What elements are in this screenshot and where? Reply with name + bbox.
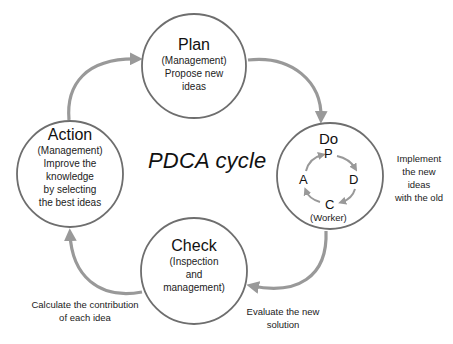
action-line: the best ideas	[39, 196, 101, 209]
plan-line: Propose new	[165, 67, 223, 80]
mini-cycle-p: P	[324, 146, 333, 161]
do-title: Do	[319, 130, 338, 147]
check-line: management)	[163, 281, 225, 294]
action-annotation: Calculate the contribution of each idea	[20, 298, 150, 324]
check-annotation-line: Evaluate the new	[238, 305, 328, 318]
do-annotation: Implement the new ideas with the old	[384, 152, 453, 204]
plan-line: (Management)	[161, 54, 226, 67]
do-annotation-line: the new	[384, 165, 453, 178]
plan-node: Plan (Management) Propose new ideas	[142, 35, 246, 93]
do-annotation-line: Implement	[384, 152, 453, 165]
arrow-plan-to-do	[248, 59, 321, 118]
do-role: (Worker)	[310, 212, 347, 223]
action-line: by selecting	[44, 183, 97, 196]
action-annotation-line: Calculate the contribution	[20, 298, 150, 311]
arrow-action-to-plan	[69, 59, 137, 120]
mini-cycle-d: D	[349, 172, 358, 187]
mini-cycle-a: A	[299, 172, 308, 187]
check-annotation: Evaluate the new solution	[238, 305, 328, 331]
do-annotation-line: ideas	[384, 178, 453, 191]
check-node: Check (Inspection and management)	[142, 236, 246, 294]
check-line: (Inspection	[170, 255, 219, 268]
check-title: Check	[171, 236, 216, 255]
arrow-do-to-check	[252, 231, 326, 288]
plan-title: Plan	[178, 35, 210, 54]
plan-line: ideas	[182, 80, 206, 93]
do-annotation-line: with the old	[384, 191, 453, 204]
action-title: Action	[48, 125, 92, 144]
action-line: knowledge	[46, 170, 94, 183]
action-line: (Management)	[37, 144, 102, 157]
check-annotation-line: solution	[238, 318, 328, 331]
action-annotation-line: of each idea	[20, 311, 150, 324]
action-node: Action (Management) Improve the knowledg…	[18, 125, 122, 209]
diagram-title: PDCA cycle	[148, 148, 267, 174]
arrow-check-to-action	[70, 234, 142, 293]
check-line: and	[186, 268, 203, 281]
mini-cycle-c: C	[325, 197, 334, 212]
action-line: Improve the	[44, 157, 97, 170]
